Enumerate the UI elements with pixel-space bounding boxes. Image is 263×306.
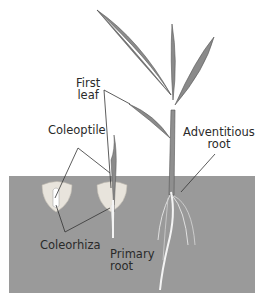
label-coleoptile: Coleoptile <box>48 124 106 136</box>
label-primary-root: Primary root <box>110 248 154 272</box>
label-first-leaf-line2: leaf <box>76 89 100 101</box>
label-adventitious-line2: root <box>183 138 255 150</box>
label-adventitious-root: Adventitious root <box>183 126 255 150</box>
label-first-leaf: First leaf <box>76 77 100 101</box>
label-coleorhiza: Coleorhiza <box>40 239 100 251</box>
label-primary-line2: root <box>110 260 154 272</box>
